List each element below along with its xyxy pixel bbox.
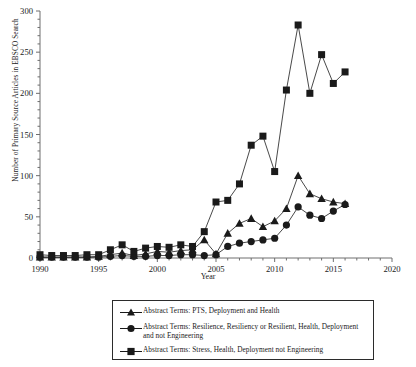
- square-marker: [330, 80, 337, 87]
- plot-area: Number of Primary Source Articles in EBS…: [0, 0, 416, 290]
- circle-marker: [177, 251, 184, 258]
- square-marker: [142, 245, 149, 252]
- circle-marker: [283, 221, 290, 228]
- circle-marker: [330, 207, 337, 214]
- square-marker: [295, 21, 302, 28]
- square-marker: [318, 51, 325, 58]
- legend-entry-pts: Abstract Terms: PTS, Deployment and Heal…: [119, 306, 367, 318]
- chart-canvas: [0, 0, 416, 290]
- square-marker: [224, 197, 231, 204]
- y-tick-label: 0: [7, 253, 33, 263]
- x-tick-label: 2015: [313, 264, 353, 274]
- square-marker: [48, 252, 55, 259]
- y-tick-label: 200: [7, 88, 33, 98]
- circle-marker: [295, 203, 302, 210]
- chart-figure: Number of Primary Source Articles in EBS…: [0, 0, 416, 367]
- series-circle: [36, 201, 348, 261]
- triangle-marker: [247, 214, 255, 222]
- square-marker: [83, 251, 90, 258]
- circle-marker: [306, 212, 313, 219]
- legend-label: Abstract Terms: Resilience, Resiliency o…: [143, 322, 367, 341]
- square-marker: [177, 241, 184, 248]
- circle-marker: [259, 236, 266, 243]
- circle-marker: [154, 252, 161, 259]
- circle-marker: [236, 240, 243, 247]
- legend-label: Abstract Terms: PTS, Deployment and Heal…: [143, 306, 279, 315]
- circle-marker: [224, 243, 231, 250]
- circle-marker: [142, 253, 149, 260]
- y-tick-label: 250: [7, 47, 33, 57]
- x-tick-label: 2020: [372, 264, 412, 274]
- circle-marker: [107, 253, 114, 260]
- triangle-marker: [306, 190, 314, 198]
- circle-marker: [341, 201, 348, 208]
- x-tick-label: 2010: [255, 264, 295, 274]
- square-marker: [154, 243, 161, 250]
- square-marker: [283, 87, 290, 94]
- square-marker: [107, 246, 114, 253]
- square-marker: [248, 142, 255, 149]
- square-marker: [213, 199, 220, 206]
- y-tick-label: 150: [7, 130, 33, 140]
- square-marker: [37, 251, 44, 258]
- square-marker: [166, 244, 173, 251]
- triangle-marker: [294, 171, 302, 179]
- square-marker: [60, 252, 67, 259]
- triangle-marker: [317, 195, 325, 203]
- square-marker: [201, 228, 208, 235]
- square-marker: [189, 243, 196, 250]
- x-tick-label: 1995: [79, 264, 119, 274]
- triangle-marker-icon: [119, 307, 143, 318]
- chart-legend: Abstract Terms: PTS, Deployment and Heal…: [112, 300, 374, 360]
- square-marker: [119, 241, 126, 248]
- circle-marker: [201, 252, 208, 259]
- series-square: [37, 21, 349, 259]
- y-tick-label: 50: [7, 212, 33, 222]
- square-marker-icon: [119, 346, 143, 357]
- triangle-marker: [329, 198, 337, 206]
- triangle-marker: [282, 204, 290, 212]
- circle-marker: [248, 238, 255, 245]
- square-marker: [271, 168, 278, 175]
- circle-marker: [165, 252, 172, 259]
- circle-marker: [189, 251, 196, 258]
- y-tick-label: 300: [7, 6, 33, 16]
- circle-marker-icon: [119, 323, 143, 334]
- legend-label: Abstract Terms: Stress, Health, Deployme…: [143, 345, 323, 354]
- triangle-marker: [235, 219, 243, 227]
- circle-marker: [119, 252, 126, 259]
- square-marker: [95, 251, 102, 258]
- x-tick-label: 2000: [137, 264, 177, 274]
- square-marker: [306, 90, 313, 97]
- x-tick-label: 1990: [20, 264, 60, 274]
- square-marker: [130, 248, 137, 255]
- series-line: [40, 25, 345, 256]
- legend-entry-resilience: Abstract Terms: Resilience, Resiliency o…: [119, 322, 367, 341]
- square-marker: [72, 252, 79, 259]
- triangle-marker: [224, 229, 232, 237]
- x-tick-label: 2005: [196, 264, 236, 274]
- triangle-marker: [200, 236, 208, 244]
- circle-marker: [212, 251, 219, 258]
- y-tick-label: 100: [7, 171, 33, 181]
- square-marker: [259, 133, 266, 140]
- circle-marker: [271, 235, 278, 242]
- triangle-marker: [259, 223, 267, 231]
- legend-entry-stress: Abstract Terms: Stress, Health, Deployme…: [119, 345, 367, 357]
- square-marker: [342, 68, 349, 75]
- square-marker: [236, 180, 243, 187]
- circle-marker: [318, 215, 325, 222]
